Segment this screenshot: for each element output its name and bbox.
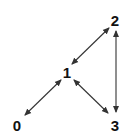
edge-1-0 xyxy=(25,80,61,115)
edge-1-2 xyxy=(72,28,109,64)
edge-1-3 xyxy=(74,80,108,113)
node-2: 2 xyxy=(111,12,119,29)
graph-diagram: 0123 xyxy=(0,0,126,140)
nodes-group: 0123 xyxy=(13,12,119,134)
node-1: 1 xyxy=(63,64,71,81)
node-3: 3 xyxy=(111,117,119,134)
node-0: 0 xyxy=(13,117,21,134)
